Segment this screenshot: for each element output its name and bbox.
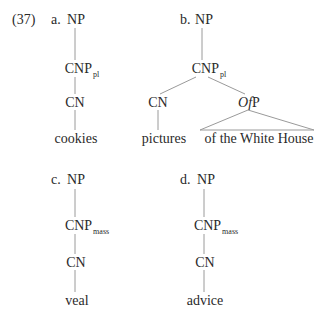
tree-d-np: NP (197, 172, 215, 188)
tree-c-cnp-subscript: mass (93, 227, 109, 236)
tree-d-cn: CN (195, 255, 214, 271)
tree-c-leaf: veal (65, 293, 88, 309)
tree-c-cn: CN (66, 255, 85, 271)
example-number: (37) (12, 12, 35, 28)
tree-c-np: NP (67, 172, 85, 188)
tree-c-cnp-base: CNP (65, 218, 92, 233)
tree-b-ofp-italic: Of (238, 95, 252, 110)
tree-d-letter: d. (180, 172, 191, 188)
tree-d-cnp-subscript: mass (222, 227, 238, 236)
tree-b-ofp: OfP (238, 95, 260, 111)
tree-b-np: NP (195, 12, 213, 28)
tree-b-cnp: CNPpl (192, 61, 226, 83)
tree-a-cnp: CNPpl (65, 61, 99, 83)
tree-a-letter: a. (51, 12, 61, 28)
tree-a-cn: CN (65, 95, 84, 111)
tree-b-cnp-base: CNP (192, 61, 219, 76)
tree-b-ofp-leaf: of the White House (205, 131, 314, 147)
edge-b-triangle-right (248, 110, 314, 130)
edge-b-triangle-left (200, 110, 248, 130)
tree-d-cnp: CNPmass (194, 218, 238, 240)
tree-b-letter: b. (180, 12, 191, 28)
tree-d-leaf: advice (187, 293, 224, 309)
tree-b-cnp-subscript: pl (220, 70, 226, 79)
tree-a-leaf: cookies (55, 131, 98, 147)
tree-c-letter: c. (51, 172, 61, 188)
edge-b-cnp-cn (160, 77, 196, 94)
tree-b-cn: CN (148, 95, 167, 111)
tree-a-cnp-subscript: pl (93, 70, 99, 79)
tree-a-np: NP (67, 12, 85, 28)
tree-b-ofp-rest: P (252, 95, 260, 110)
tree-b-cn-leaf: pictures (142, 131, 186, 147)
tree-edges (0, 0, 331, 310)
tree-d-cnp-base: CNP (194, 218, 221, 233)
tree-c-cnp: CNPmass (65, 218, 109, 240)
tree-a-cnp-base: CNP (65, 61, 92, 76)
